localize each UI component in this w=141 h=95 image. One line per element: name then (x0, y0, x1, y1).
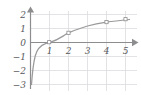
y-tick-label: 0 (20, 38, 26, 48)
y-tick-label: −1 (13, 52, 26, 62)
x-axis-tick-labels: 1 2 3 4 5 (47, 46, 129, 56)
x-tick-label: 1 (47, 46, 53, 56)
x-tick-label: 3 (85, 46, 91, 56)
y-tick-label: 1 (20, 24, 26, 34)
y-axis-tick-labels: 2 1 0 −1 −2 −3 (13, 10, 27, 90)
data-point-marker (67, 31, 70, 34)
x-axis-arrow-icon (132, 39, 139, 46)
data-point-marker (105, 21, 108, 24)
x-tick-label: 2 (65, 46, 72, 56)
y-axis-arrow-icon (27, 7, 34, 13)
x-tick-label: 5 (123, 46, 129, 56)
y-tick-label: −3 (13, 80, 27, 90)
x-tick-label: 4 (103, 46, 110, 56)
log-function-chart: 2 1 0 −1 −2 −3 1 2 3 4 5 (0, 0, 141, 95)
data-point-marker (124, 18, 127, 21)
data-point-marker (48, 41, 51, 44)
y-tick-label: 2 (19, 10, 26, 20)
y-tick-label: −2 (13, 66, 27, 76)
chart-canvas: 2 1 0 −1 −2 −3 1 2 3 4 5 (0, 0, 141, 95)
